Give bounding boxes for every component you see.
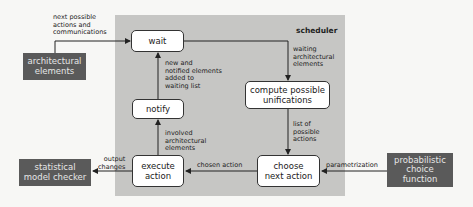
statistical-model-checker-box: statistical model checker	[19, 159, 91, 186]
label-involved-architectural-elements: involved architectural elements	[165, 130, 206, 153]
label-waiting-architectural-elements: waiting architectural elements	[293, 46, 334, 69]
wait-node: wait	[131, 30, 184, 52]
label-next-possible-actions: next possible actions and communications	[53, 14, 107, 37]
execute-action-node: execute action	[132, 155, 184, 187]
probabilistic-choice-function-box: probabilistic choice function	[387, 153, 453, 187]
label-new-and-notified-elements: new and notified elements added to waiti…	[165, 60, 222, 90]
label-output-changes: output changes	[98, 156, 125, 171]
label-list-of-possible-actions: list of possible actions	[293, 121, 320, 144]
notify-node: notify	[132, 99, 184, 119]
architectural-elements-box: architectural elements	[23, 53, 86, 80]
choose-next-action-node: choose next action	[257, 155, 320, 187]
compute-unifications-node: compute possible unifications	[245, 81, 330, 109]
label-chosen-action: chosen action	[197, 162, 242, 170]
label-parametrization: parametrization	[326, 162, 378, 170]
